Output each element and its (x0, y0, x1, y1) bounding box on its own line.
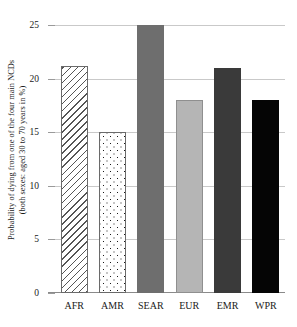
x-tick-label-amr: AMR (101, 300, 124, 311)
plot-area: 0510152025 (55, 25, 285, 293)
y-tick-label: 15 (30, 127, 40, 137)
y-tick-mark: 15 (48, 132, 55, 133)
gridline (55, 25, 285, 26)
y-tick-mark: 20 (48, 79, 55, 80)
y-tick-label: 0 (34, 288, 39, 298)
gridline (55, 79, 285, 80)
y-tick-label: 25 (30, 20, 40, 30)
x-tick-label-sear: SEAR (138, 300, 164, 311)
y-tick-mark: 25 (48, 25, 55, 26)
y-axis-title-line-1: Probability of dying from one of the fou… (6, 60, 17, 240)
x-tick-label-emr: EMR (217, 300, 239, 311)
gridline (55, 239, 285, 240)
bar-emr (214, 68, 241, 293)
y-tick-mark: 0 (48, 293, 55, 294)
bar-afr (61, 66, 88, 293)
chart-figure: Probability of dying from one of the fou… (0, 0, 297, 327)
bar-eur (176, 100, 203, 293)
bar-sear (137, 25, 164, 293)
gridline (55, 132, 285, 133)
y-tick-label: 5 (34, 234, 39, 244)
y-tick-label: 20 (30, 74, 40, 84)
gridline (55, 186, 285, 187)
x-tick-label-wpr: WPR (255, 300, 277, 311)
y-tick-label: 10 (30, 181, 40, 191)
bar-amr (99, 132, 126, 293)
bar-wpr (252, 100, 279, 293)
y-tick-mark: 10 (48, 186, 55, 187)
x-tick-label-afr: AFR (64, 300, 83, 311)
y-axis-title-line-2: (both sexes: aged 30 to 70 years in %) (17, 60, 28, 240)
y-axis-title: Probability of dying from one of the fou… (0, 0, 34, 300)
x-tick-label-eur: EUR (179, 300, 199, 311)
y-tick-mark: 5 (48, 239, 55, 240)
